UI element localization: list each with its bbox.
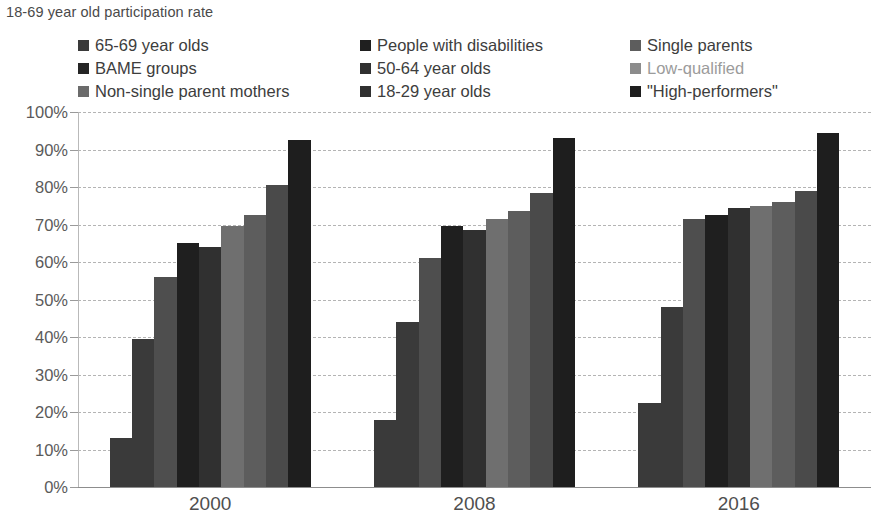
bar[interactable] [795,191,817,487]
legend-item[interactable]: "High-performers" [630,83,868,100]
chart-title: 18-69 year old participation rate [6,4,213,20]
y-axis-tick-label: 50% [35,290,68,309]
legend-item-label: Low-qualified [647,60,744,77]
x-axis-baseline [78,487,871,488]
legend-swatch-icon [360,63,371,74]
y-axis-tick-label: 90% [35,140,68,159]
y-axis-tick-label: 70% [35,215,68,234]
y-axis-tick-label: 0% [44,478,68,497]
x-axis-tick-label: 2000 [78,493,342,515]
bar-group-bars [110,112,311,487]
y-axis-tick-label: 60% [35,253,68,272]
legend-swatch-icon [360,40,371,51]
y-axis-tick-mark [70,412,78,413]
y-axis-tick-mark [70,300,78,301]
bars-layer [78,112,871,487]
bar[interactable] [396,322,418,487]
bar-group-bars [638,112,839,487]
bar[interactable] [638,403,660,487]
legend-item[interactable]: Non-single parent mothers [78,83,360,100]
bar[interactable] [441,226,463,487]
bar[interactable] [508,211,530,487]
bar[interactable] [728,208,750,487]
y-axis-tick-label: 40% [35,328,68,347]
bar[interactable] [177,243,199,487]
legend-item-label: People with disabilities [377,37,543,54]
bar[interactable] [419,258,441,487]
chart-legend: 65-69 year oldsPeople with disabilitiesS… [78,34,868,103]
legend-item-label: "High-performers" [647,83,778,100]
legend-swatch-icon [630,86,641,97]
y-axis-tick-mark [70,337,78,338]
x-axis-tick-label: 2008 [342,493,606,515]
x-axis: 200020082016 [78,493,871,515]
bar[interactable] [221,226,243,487]
y-axis-tick-mark [70,450,78,451]
plot-canvas [78,112,871,487]
bar[interactable] [772,202,794,487]
bar[interactable] [288,140,310,487]
chart-plot-area: 100%90%80%70%60%50%40%30%20%10%0% 200020… [0,112,877,527]
y-axis-tick-mark [70,487,78,488]
legend-swatch-icon [630,63,641,74]
legend-item-label: 50-64 year olds [377,60,491,77]
legend-item[interactable]: 18-29 year olds [360,83,630,100]
bar[interactable] [683,219,705,487]
legend-swatch-icon [78,86,89,97]
bar-group [78,112,342,487]
legend-item[interactable]: Low-qualified [630,60,868,77]
bar[interactable] [705,215,727,487]
y-axis-tick-label: 30% [35,365,68,384]
x-axis-tick-label: 2016 [607,493,871,515]
legend-swatch-icon [78,40,89,51]
legend-swatch-icon [78,63,89,74]
bar[interactable] [154,277,176,487]
bar[interactable] [244,215,266,487]
y-axis-tick-label: 80% [35,178,68,197]
bar[interactable] [132,339,154,487]
y-axis-tick-label: 100% [26,103,68,122]
y-axis-tick-label: 20% [35,403,68,422]
legend-item-label: 65-69 year olds [95,37,209,54]
legend-item-label: Single parents [647,37,753,54]
bar[interactable] [199,247,221,487]
legend-item-label: 18-29 year olds [377,83,491,100]
bar[interactable] [661,307,683,487]
legend-item[interactable]: BAME groups [78,60,360,77]
bar-group [607,112,871,487]
bar[interactable] [374,420,396,488]
legend-item[interactable]: 65-69 year olds [78,37,360,54]
bar[interactable] [110,438,132,487]
bar[interactable] [486,219,508,487]
y-axis-tick-mark [70,112,78,113]
bar-group [342,112,606,487]
y-axis-tick-mark [70,375,78,376]
bar[interactable] [817,133,839,487]
y-axis-tick-mark [70,225,78,226]
y-axis-tick-label: 10% [35,440,68,459]
y-axis-tick-mark [70,150,78,151]
bar[interactable] [266,185,288,487]
bar[interactable] [530,193,552,487]
y-axis-tick-mark [70,262,78,263]
legend-item-label: Non-single parent mothers [95,83,289,100]
bar[interactable] [750,206,772,487]
legend-swatch-icon [630,40,641,51]
legend-swatch-icon [360,86,371,97]
legend-item[interactable]: People with disabilities [360,37,630,54]
y-axis-tick-mark [70,187,78,188]
y-axis: 100%90%80%70%60%50%40%30%20%10%0% [0,112,78,487]
bar[interactable] [553,138,575,487]
legend-item-label: BAME groups [95,60,197,77]
legend-item[interactable]: Single parents [630,37,868,54]
legend-item[interactable]: 50-64 year olds [360,60,630,77]
bar[interactable] [463,230,485,487]
bar-group-bars [374,112,575,487]
